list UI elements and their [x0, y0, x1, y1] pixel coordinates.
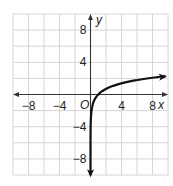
- y-tick-label: 8: [80, 23, 87, 37]
- y-axis-label: y: [95, 13, 103, 27]
- x-tick-label: 4: [118, 99, 125, 113]
- x-tick-label: 8: [149, 99, 156, 113]
- function-curve: [87, 73, 167, 177]
- origin-label: O: [80, 98, 89, 112]
- curve-path: [91, 76, 165, 174]
- y-tick-label: −8: [73, 152, 87, 166]
- x-axis-label: x: [157, 98, 165, 112]
- x-tick-label: −8: [22, 99, 36, 113]
- x-axis-arrow-left-icon: [13, 92, 19, 97]
- y-tick-label: 4: [80, 55, 87, 69]
- y-axis-arrow-up-icon: [88, 14, 93, 20]
- x-tick-label: −4: [53, 99, 67, 113]
- log-function-graph: −8−44884−4−8 x y O: [0, 0, 173, 186]
- y-tick-label: −4: [73, 120, 87, 134]
- x-axis-arrow-right-icon: [162, 92, 168, 97]
